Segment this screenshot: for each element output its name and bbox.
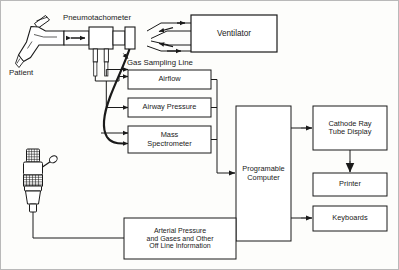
label-pneumotachometer: Pneumotachometer <box>63 14 131 23</box>
box-mass-spectrometer <box>128 126 211 153</box>
patient-elbow-connector-icon <box>16 16 65 68</box>
box-keyboards <box>313 206 387 231</box>
box-crt <box>313 106 387 150</box>
box-printer <box>313 173 387 196</box>
transducer-signal-lines <box>95 70 128 134</box>
signal-bus-to-computer <box>211 80 235 174</box>
flow-arrow-icon <box>159 23 185 51</box>
label-patient: Patient <box>9 69 33 78</box>
diagram-vector-layer <box>1 1 399 270</box>
box-airway-pressure <box>128 98 211 117</box>
diagram-canvas: Ventilator Airflow Airway Pressure Mass … <box>0 0 399 270</box>
box-ventilator <box>191 15 277 52</box>
pressure-transducer-icon <box>24 149 59 212</box>
transducer-to-arterial-line <box>33 212 124 238</box>
label-gas-sampling-line: Gas Sampling Line <box>127 59 193 68</box>
box-computer <box>236 106 291 241</box>
ventilator-tubing <box>147 23 191 51</box>
box-airflow <box>128 70 211 89</box>
box-arterial <box>124 218 236 259</box>
